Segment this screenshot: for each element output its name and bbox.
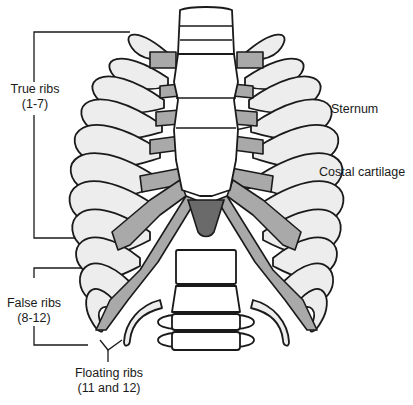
sternum-title: Sternum <box>331 102 378 116</box>
floating-ribs-label: Floating ribs (11 and 12) <box>70 366 148 396</box>
false-ribs-label: False ribs (8-12) <box>4 296 64 326</box>
floating-ribs-range: (11 and 12) <box>70 381 148 396</box>
costal-cartilage-title: Costal cartilage <box>319 165 405 179</box>
true-ribs-range: (1-7) <box>8 97 62 112</box>
vertebrae <box>158 250 254 350</box>
floating-ribs-title: Floating ribs <box>70 366 148 381</box>
floating-ribs-leader <box>100 340 122 362</box>
false-ribs-range: (8-12) <box>4 311 64 326</box>
costal-cartilage-label: Costal cartilage <box>319 165 405 180</box>
sternum-label: Sternum <box>331 102 378 117</box>
false-ribs-title: False ribs <box>4 296 64 311</box>
rib-cage-illustration <box>0 0 413 405</box>
true-ribs-title: True ribs <box>8 82 62 97</box>
true-ribs-label: True ribs (1-7) <box>8 82 62 112</box>
